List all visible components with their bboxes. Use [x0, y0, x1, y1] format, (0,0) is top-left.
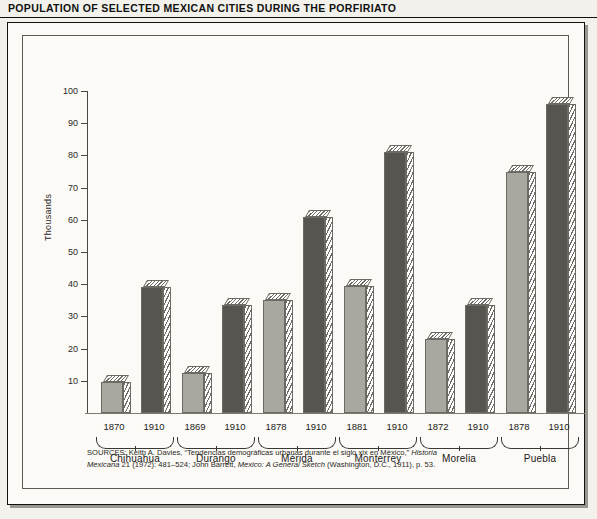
- year-label-chihuahua-1910: 1910: [134, 421, 174, 432]
- bar-side-face: [528, 172, 536, 414]
- chart-frame: Thousands 102030405060708090100 18701910…: [7, 22, 585, 505]
- y-tick-mark: [81, 381, 87, 382]
- year-label-chihuahua-1870: 1870: [94, 421, 134, 432]
- year-label-puebla-1910: 1910: [539, 421, 579, 432]
- bar-top-face: [224, 298, 250, 305]
- bar-side-face: [406, 152, 414, 413]
- bar-front-face: [263, 300, 285, 413]
- year-label-morelia-1910: 1910: [458, 421, 498, 432]
- year-label-durango-1869: 1869: [175, 421, 215, 432]
- page-title: POPULATION OF SELECTED MEXICAN CITIES DU…: [8, 2, 396, 14]
- year-label-puebla-1878: 1878: [499, 421, 539, 432]
- year-label-monterrey-1881: 1881: [337, 421, 377, 432]
- y-tick-label: 30: [68, 311, 78, 321]
- title-divider: [0, 17, 597, 18]
- bar-top-face: [386, 145, 412, 152]
- y-tick-mark: [81, 252, 87, 253]
- bar-side-face: [366, 286, 374, 413]
- year-label-monterrey-1910: 1910: [377, 421, 417, 432]
- y-tick-mark: [81, 349, 87, 350]
- y-tick-mark: [81, 188, 87, 189]
- y-tick-mark: [81, 220, 87, 221]
- bar-side-face: [163, 287, 171, 413]
- bar-side-face: [123, 382, 131, 413]
- y-tick-label: 70: [68, 183, 78, 193]
- y-tick-mark: [81, 284, 87, 285]
- bar-top-face: [427, 332, 453, 339]
- source-text-2: 21 (1972): 481–524; John Barrett,: [120, 460, 238, 469]
- bar-top-face: [508, 165, 534, 172]
- source-text-1: Keith A. Davies, “Tendencias demográfica…: [127, 448, 412, 457]
- chart-inner-border: Thousands 102030405060708090100 18701910…: [22, 35, 569, 489]
- y-tick-mark: [81, 316, 87, 317]
- bar-side-face: [487, 305, 495, 413]
- bar-side-face: [568, 104, 576, 413]
- bar-front-face: [344, 286, 366, 413]
- bar-top-face: [548, 97, 574, 104]
- bar-side-face: [204, 373, 212, 413]
- bar-side-face: [325, 217, 333, 413]
- bar-top-face: [305, 210, 331, 217]
- source-italic-2: Mexicana: [87, 460, 120, 469]
- y-tick-label: 10: [68, 376, 78, 386]
- year-label-mérida-1910: 1910: [296, 421, 336, 432]
- bar-front-face: [384, 152, 406, 413]
- y-tick-mark: [81, 123, 87, 124]
- bar-top-face: [184, 366, 210, 373]
- y-tick-label: 100: [63, 86, 78, 96]
- bar-front-face: [101, 382, 123, 413]
- bar-front-face: [141, 287, 163, 413]
- source-italic-1: Historia: [411, 448, 437, 457]
- year-label-mérida-1878: 1878: [256, 421, 296, 432]
- y-tick-label: 20: [68, 344, 78, 354]
- bar-top-face: [346, 279, 372, 286]
- bar-side-face: [285, 300, 293, 413]
- y-tick-label: 80: [68, 150, 78, 160]
- bar-top-face: [265, 293, 291, 300]
- bar-front-face: [182, 373, 204, 413]
- year-label-durango-1910: 1910: [215, 421, 255, 432]
- source-italic-3: Mexico: A General Sketch: [238, 460, 325, 469]
- bar-front-face: [546, 104, 568, 413]
- y-axis-line: [87, 91, 88, 413]
- y-tick-label: 60: [68, 215, 78, 225]
- y-tick-mark: [81, 155, 87, 156]
- bar-front-face: [222, 305, 244, 413]
- bar-side-face: [447, 339, 455, 413]
- bar-top-face: [467, 298, 493, 305]
- y-tick-label: 50: [68, 247, 78, 257]
- source-note: SOURCES: Keith A. Davies, “Tendencias de…: [87, 447, 542, 471]
- bar-front-face: [506, 172, 528, 414]
- bar-front-face: [425, 339, 447, 413]
- bar-front-face: [465, 305, 487, 413]
- bar-top-face: [103, 375, 129, 382]
- y-tick-mark: [81, 91, 87, 92]
- y-tick-label: 90: [68, 118, 78, 128]
- x-axis-line: [85, 413, 585, 414]
- bar-front-face: [303, 217, 325, 413]
- bar-top-face: [143, 280, 169, 287]
- year-label-morelia-1872: 1872: [418, 421, 458, 432]
- y-axis-title: Thousands: [43, 194, 53, 241]
- plot-area: Thousands 102030405060708090100 18701910…: [87, 91, 587, 413]
- source-text-3: (Washington, D.C., 1911), p. 53.: [325, 460, 435, 469]
- bar-side-face: [244, 305, 252, 413]
- source-label: SOURCES:: [87, 448, 127, 457]
- y-tick-label: 40: [68, 279, 78, 289]
